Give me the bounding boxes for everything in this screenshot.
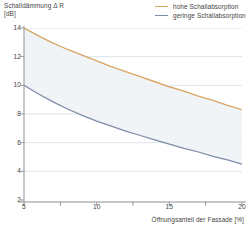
x-axis-tick-label: 15 (166, 203, 174, 210)
chart-container: Schalldämmung Δ R [dB] hohe Schallabsorp… (0, 0, 251, 232)
x-axis-tick-label: 20 (238, 203, 246, 210)
x-axis-tick-labels: 5101520 (0, 203, 251, 215)
axes-layer (0, 0, 251, 232)
x-axis-tick-label: 10 (93, 203, 101, 210)
axis-tick-marks (20, 28, 242, 206)
x-axis-title: Öffnungsanteil der Fassade [%] (152, 216, 244, 223)
x-axis-tick-label: 5 (22, 203, 26, 210)
